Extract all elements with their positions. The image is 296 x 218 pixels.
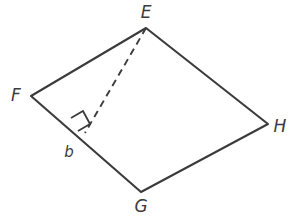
vertex-label-e: E [141,2,152,22]
quadrilateral-outline [31,28,268,192]
right-angle-marker-icon [71,111,90,131]
geometry-figure: E F G H b [0,0,296,218]
vertex-label-h: H [274,116,287,136]
vertex-label-f: F [11,85,21,105]
vertex-label-g: G [134,196,147,216]
figure-canvas: E F G H b [0,0,296,218]
height-label-b: b [64,143,74,161]
altitude-dashed-segment [85,28,146,133]
